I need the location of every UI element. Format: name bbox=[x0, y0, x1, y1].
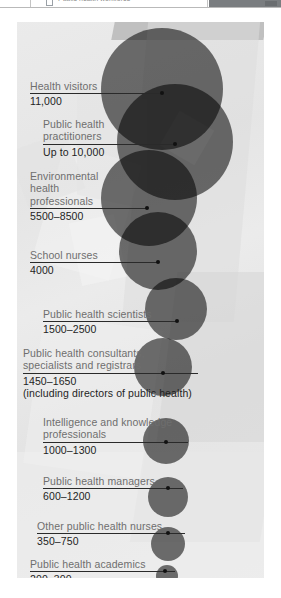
entry-label: Public health scientists bbox=[43, 308, 173, 320]
leader-line-public-health-scientists bbox=[43, 321, 177, 322]
leader-dot-public-health-managers bbox=[166, 486, 170, 490]
leader-line-public-health-academics bbox=[30, 571, 165, 572]
browser-tab-title: Public health workforce bbox=[58, 0, 130, 3]
leader-dot-other-public-health-nurses bbox=[166, 531, 170, 535]
entry-value: Up to 10,000 bbox=[43, 146, 163, 158]
leader-dot-environmental-health-professionals bbox=[145, 206, 149, 210]
entry-intelligence-knowledge-professionals: Intelligence and knowledge professionals… bbox=[43, 416, 188, 456]
entry-value: 1500–2500 bbox=[43, 323, 173, 335]
entry-value: 1450–1650 (including directors of public… bbox=[23, 375, 198, 400]
leader-line-environmental-health-professionals bbox=[30, 208, 147, 209]
leader-line-health-visitors bbox=[30, 93, 162, 94]
leader-dot-intelligence-knowledge-professionals bbox=[164, 440, 168, 444]
leader-dot-public-health-academics bbox=[163, 569, 167, 573]
entry-value: 1000–1300 bbox=[43, 444, 188, 456]
entry-label: Public health managers bbox=[43, 475, 183, 487]
entry-label: Public health academics bbox=[30, 558, 175, 570]
leader-dot-school-nurses bbox=[156, 260, 160, 264]
entry-public-health-practitioners: Public health practitioners Up to 10,000 bbox=[43, 118, 163, 158]
window-controls-button[interactable] bbox=[265, 1, 277, 6]
entry-value: 4000 bbox=[30, 264, 148, 276]
entry-value: 600–1200 bbox=[43, 490, 183, 502]
leader-line-other-public-health-nurses bbox=[37, 533, 169, 534]
leader-dot-public-health-scientists bbox=[175, 319, 179, 323]
entry-value: 5500–8500 bbox=[30, 210, 148, 222]
leader-line-public-health-consultants bbox=[23, 373, 163, 374]
leader-line-intelligence-knowledge-professionals bbox=[43, 442, 168, 443]
entry-label: Other public health nurses bbox=[37, 520, 185, 532]
bubble-chart-figure: Health visitors 11,000 Public health pra… bbox=[17, 22, 264, 578]
entry-value: 200–300 bbox=[30, 573, 175, 578]
leader-line-public-health-managers bbox=[43, 488, 170, 489]
leader-line-public-health-practitioners bbox=[43, 144, 175, 145]
browser-chrome-sliver: Public health workforce bbox=[0, 0, 281, 10]
entry-label: Intelligence and knowledge professionals bbox=[43, 416, 188, 441]
entry-label: Public health consultants, specialists a… bbox=[23, 347, 198, 372]
favicon-icon bbox=[46, 0, 53, 6]
entry-value: 11,000 bbox=[30, 95, 148, 107]
leader-dot-health-visitors bbox=[160, 91, 164, 95]
leader-dot-public-health-consultants bbox=[161, 371, 165, 375]
entry-environmental-health-professionals: Environmental health professionals 5500–… bbox=[30, 170, 148, 223]
leader-dot-public-health-practitioners bbox=[173, 142, 177, 146]
entry-label: Health visitors bbox=[30, 80, 148, 92]
entry-label: School nurses bbox=[30, 249, 148, 261]
chrome-right-region bbox=[209, 0, 281, 7]
entry-label: Environmental health professionals bbox=[30, 170, 148, 207]
entry-public-health-academics: Public health academics 200–300 bbox=[30, 558, 175, 578]
entry-label: Public health practitioners bbox=[43, 118, 163, 143]
entry-value: 350–750 bbox=[37, 535, 185, 547]
leader-line-school-nurses bbox=[30, 262, 158, 263]
